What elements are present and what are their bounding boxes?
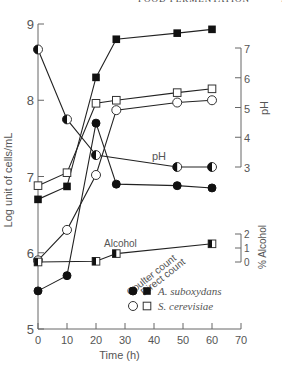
y-tick-label: 5 xyxy=(27,322,34,337)
series-line-2 xyxy=(38,100,212,260)
open-circle-marker-icon xyxy=(129,302,138,311)
filled-circle-marker-icon xyxy=(173,182,181,190)
half-filled-circle-marker-icon xyxy=(208,163,217,172)
filled-circle-marker-icon xyxy=(92,119,100,127)
filled-square-marker-icon xyxy=(173,29,181,37)
ph-axis-label: pH xyxy=(258,101,270,115)
y-tick-label: 8 xyxy=(27,93,34,108)
open-circle-marker-icon xyxy=(92,170,101,179)
half-filled-square-marker-icon xyxy=(92,258,100,266)
half-filled-circle-marker-icon xyxy=(173,163,182,172)
open-square-marker-icon xyxy=(143,302,151,310)
series-layer xyxy=(34,26,217,295)
alcohol-axis-label: % Alcohol xyxy=(257,225,268,269)
alcohol-annotation: Alcohol xyxy=(104,238,137,249)
x-tick-label: 50 xyxy=(177,334,189,346)
half-filled-square-marker-icon xyxy=(208,240,216,248)
ph-tick-label: 7 xyxy=(244,43,250,55)
y-tick-label: 7 xyxy=(27,170,34,185)
filled-square-marker-icon xyxy=(208,26,216,34)
filled-square-marker-icon xyxy=(63,183,71,191)
fermentation-chart: 5678901020304050607034567012 Time (h)Log… xyxy=(0,0,282,371)
x-tick-label: 20 xyxy=(90,334,102,346)
open-square-marker-icon xyxy=(208,85,216,93)
legend-label: A. suboxydans xyxy=(157,285,222,297)
x-axis-label: Time (h) xyxy=(99,349,140,361)
half-filled-square-marker-icon xyxy=(34,258,42,266)
filled-circle-marker-icon xyxy=(129,287,137,295)
filled-circle-marker-icon xyxy=(34,287,42,295)
alcohol-tick-label: 1 xyxy=(244,243,250,254)
half-filled-circle-marker-icon xyxy=(92,151,101,160)
alcohol-tick-label: 2 xyxy=(244,229,250,240)
filled-square-marker-icon xyxy=(92,74,100,82)
x-tick-label: 0 xyxy=(35,334,41,346)
open-square-marker-icon xyxy=(34,182,42,190)
open-circle-marker-icon xyxy=(173,98,182,107)
ph-tick-label: 5 xyxy=(244,103,250,115)
filled-square-marker-icon xyxy=(143,287,151,295)
ph-tick-label: 4 xyxy=(244,132,250,144)
ph-tick-label: 3 xyxy=(244,162,250,174)
axis-labels: Time (h)Log unit of cells/mLpH% Alcoholp… xyxy=(2,101,270,361)
half-filled-square-marker-icon xyxy=(113,250,121,258)
x-tick-label: 60 xyxy=(206,334,218,346)
filled-square-marker-icon xyxy=(113,35,121,43)
legend-label: S. cerevisiae xyxy=(158,300,213,312)
y-tick-label: 6 xyxy=(27,246,34,261)
open-circle-marker-icon xyxy=(208,96,217,105)
y-tick-label: 9 xyxy=(27,17,34,32)
x-tick-label: 40 xyxy=(148,334,160,346)
open-circle-marker-icon xyxy=(112,106,121,115)
open-circle-marker-icon xyxy=(63,225,72,234)
x-tick-label: 10 xyxy=(61,334,73,346)
ph-tick-label: 6 xyxy=(244,73,250,85)
filled-circle-marker-icon xyxy=(112,180,120,188)
half-filled-circle-marker-icon xyxy=(63,115,72,124)
filled-circle-marker-icon xyxy=(63,272,71,280)
open-square-marker-icon xyxy=(92,100,100,108)
half-filled-circle-marker-icon xyxy=(34,45,43,54)
open-square-marker-icon xyxy=(173,89,181,97)
open-square-marker-icon xyxy=(113,96,121,104)
alcohol-tick-label: 0 xyxy=(244,257,250,268)
filled-square-marker-icon xyxy=(34,196,42,204)
x-tick-label: 70 xyxy=(235,334,247,346)
y-axis-label: Log unit of cells/mL xyxy=(2,133,14,228)
x-tick-label: 30 xyxy=(119,334,131,346)
ph-annotation: pH xyxy=(152,150,166,162)
open-square-marker-icon xyxy=(63,169,71,177)
filled-circle-marker-icon xyxy=(208,184,216,192)
series-line-4 xyxy=(38,49,212,167)
